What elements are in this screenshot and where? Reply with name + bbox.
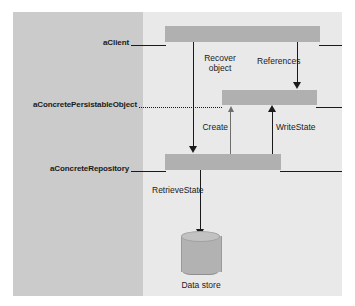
message-line-retrievestate [200, 170, 201, 233]
arrow-up-icon-writestate [268, 105, 276, 112]
participant-label-aconcreterepository: aConcreteRepository [13, 164, 129, 173]
lifeline-aconcreterepository-right [280, 171, 342, 172]
message-label-create: Create [201, 122, 228, 132]
message-label-references: References [257, 56, 295, 66]
lifeline-aclient-left [131, 45, 166, 46]
message-line-recover-object [193, 42, 194, 148]
message-line-writestate [272, 112, 273, 154]
activation-bar-aconcretepersistableobject [222, 90, 317, 105]
arrow-down-icon-references [293, 82, 301, 89]
message-line-create [230, 112, 231, 154]
arrow-up-icon-create [228, 106, 234, 112]
participant-label-aclient: aClient [13, 38, 129, 47]
lifeline-aconcretepersistableobject-right [316, 107, 342, 108]
participant-label-panel [13, 12, 143, 296]
data-store-cylinder [181, 231, 220, 275]
activation-bar-aconcreterepository [165, 154, 281, 170]
diagram-canvas: aClient aConcretePersistableObject aConc… [13, 12, 342, 296]
data-store-caption: Data store [163, 280, 239, 290]
sequence-diagram-figure: aClient aConcretePersistableObject aConc… [0, 0, 355, 306]
cylinder-top-icon [181, 231, 220, 242]
activation-bar-aclient [165, 26, 320, 42]
participant-label-aconcretepersistableobject: aConcretePersistableObject [13, 100, 137, 109]
lifeline-aconcretepersistableobject-left [139, 107, 222, 108]
message-label-writestate: WriteState [276, 122, 316, 132]
lifeline-aconcreterepository-left [131, 171, 166, 172]
arrow-down-icon-recover-object [189, 146, 197, 153]
lifeline-aclient-right [319, 45, 342, 46]
message-label-recover-object: Recover object [197, 53, 243, 73]
message-label-retrievestate: RetrieveState [152, 185, 198, 195]
